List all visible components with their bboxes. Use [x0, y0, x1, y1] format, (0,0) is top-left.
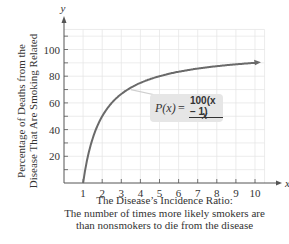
function-curve [83, 63, 255, 183]
y-tick-label: 80 [49, 70, 61, 82]
y-tick-label: 20 [49, 150, 61, 162]
x-axis-arrow-icon [276, 181, 282, 186]
y-tick-label: 40 [49, 124, 61, 136]
y-axis-label: Percentage of Deaths from the Disease Th… [15, 26, 39, 196]
x-axis-label-line: The number of times more likely smokers … [40, 207, 289, 220]
x-axis-label: The Disease’s Incidence Ratio: The numbe… [40, 194, 289, 232]
curve-arrow-icon [254, 60, 261, 66]
formula-annotation: P(x) = 100(x − 1) x [150, 94, 223, 122]
formula-lhs: P(x) [155, 101, 176, 116]
x-axis-name: x [284, 177, 289, 189]
x-axis-label-line: than nonsmokers to die from the disease [40, 219, 289, 232]
y-axis-label-line: Disease That Are Smoking Related [27, 26, 39, 196]
y-axis-arrow-icon [62, 16, 67, 23]
y-axis-name: y [60, 2, 66, 14]
y-tick-label: 100 [44, 44, 61, 56]
x-axis-label-line: The Disease’s Incidence Ratio: [40, 194, 289, 207]
y-axis-label-line: Percentage of Deaths from the [15, 26, 27, 196]
y-tick-label: 60 [49, 97, 61, 109]
formula-denominator: x [202, 108, 207, 123]
formula-equals: = [178, 101, 185, 116]
